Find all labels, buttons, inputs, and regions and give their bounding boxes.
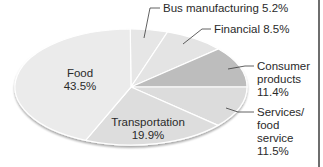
label-services-line3: service xyxy=(257,132,304,145)
label-services-line1: Services/ xyxy=(257,106,304,119)
right-border xyxy=(318,0,320,167)
label-services: Services/ food service 11.5% xyxy=(257,106,304,158)
label-transportation-name: Transportation xyxy=(108,116,188,129)
label-consumer-line1: Consumer xyxy=(257,60,310,73)
label-consumer-value: 11.4% xyxy=(257,86,310,99)
label-services-value: 11.5% xyxy=(257,145,304,158)
label-transportation-value: 19.9% xyxy=(108,129,188,142)
label-food: Food 43.5% xyxy=(55,67,105,93)
label-consumer-line2: products xyxy=(257,73,310,86)
label-food-name: Food xyxy=(55,67,105,80)
label-food-value: 43.5% xyxy=(55,80,105,93)
label-financial: Financial 8.5% xyxy=(214,23,289,36)
label-consumer-products: Consumer products 11.4% xyxy=(257,60,310,99)
label-services-line2: food xyxy=(257,119,304,132)
label-transportation: Transportation 19.9% xyxy=(108,116,188,142)
label-bus-manufacturing: Bus manufacturing 5.2% xyxy=(163,2,288,15)
